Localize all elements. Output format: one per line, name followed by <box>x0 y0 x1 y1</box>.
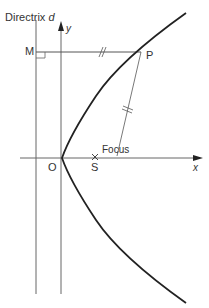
origin-label: O <box>48 162 57 173</box>
y-axis-arrow-icon <box>58 21 64 31</box>
directrix-symbol: d <box>48 11 54 23</box>
y-axis-label: y <box>66 24 71 34</box>
point-m-label: M <box>25 46 34 57</box>
directrix-label: Directrix d <box>5 12 55 23</box>
point-p-label: P <box>146 50 153 61</box>
x-axis-arrow-icon <box>193 155 203 161</box>
directrix-text: Directrix <box>5 11 45 23</box>
focus-point-label: S <box>91 162 98 173</box>
right-angle-marker <box>36 52 45 58</box>
focus-label: Focus <box>102 145 129 155</box>
x-axis-label: x <box>193 163 198 173</box>
